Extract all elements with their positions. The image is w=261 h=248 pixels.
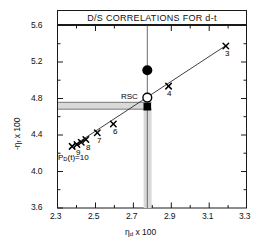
pd-label-rest: (t)=10 <box>68 153 89 162</box>
filled-circle-marker <box>142 65 152 75</box>
y-tick-label-2: 4.8 <box>31 93 42 103</box>
intersection-square-marker <box>144 103 152 111</box>
pd-series-label: PD(t)=10 <box>58 153 89 162</box>
chart-figure: D/S CORRELATIONS FOR d-t <box>0 0 261 248</box>
horizontal-uncertainty-band <box>58 102 150 109</box>
x-tick-label-0: 2.3 <box>50 211 61 221</box>
rsc-label: RSC <box>121 92 138 101</box>
plot-frame <box>58 26 247 209</box>
x-tick-label-3: 2.9 <box>164 211 175 221</box>
point-label-6: 6 <box>113 127 117 136</box>
point-label-4: 4 <box>167 89 171 98</box>
point-label-7: 7 <box>97 136 101 145</box>
x-tick-label-5: 3.3 <box>239 211 250 221</box>
rsc-open-circle-marker <box>143 93 152 102</box>
x-tick-label-4: 3.1 <box>202 211 213 221</box>
x-tick-label-1: 2.5 <box>88 211 99 221</box>
x-axis-label: ηd x 100 <box>125 227 156 237</box>
point-label-8: 8 <box>86 143 90 152</box>
y-axis-label: -ηf x 100 <box>12 118 22 150</box>
y-tick-label-5: 3.6 <box>31 202 42 212</box>
y-tick-label-1: 5.2 <box>31 56 42 66</box>
y-tick-label-0: 5.6 <box>31 20 42 30</box>
point-label-3: 3 <box>225 49 229 58</box>
x-tick-label-2: 2.7 <box>126 211 137 221</box>
y-tick-label-4: 4.0 <box>31 166 42 176</box>
y-tick-label-3: 4.4 <box>31 129 42 139</box>
